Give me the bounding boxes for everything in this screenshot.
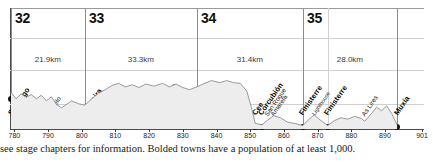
axis-tick-label: 880 — [337, 132, 365, 139]
axis-tick-label: 860 — [270, 132, 298, 139]
elevation-fill — [11, 81, 397, 129]
axis-tick-label: 901 — [408, 132, 433, 139]
axis-tick-label: 850 — [236, 132, 264, 139]
axis-tick-label: 800 — [68, 132, 96, 139]
axis-tick-label: 780 — [0, 132, 28, 139]
axis-tick-label: 840 — [203, 132, 231, 139]
figure-caption: see stage chapters for information. Bold… — [0, 143, 424, 156]
elevation-profile-line — [0, 8, 424, 130]
axis-tick-label: 820 — [135, 132, 163, 139]
axis-tick-label: 810 — [101, 132, 129, 139]
axis-tick-label: 870 — [304, 132, 332, 139]
axis-tick-label: 790 — [34, 132, 62, 139]
axis-tick-label: 830 — [169, 132, 197, 139]
x-axis: 780790800810820830840850860870880890901 — [0, 129, 424, 143]
axis-tick-label: 890 — [371, 132, 399, 139]
